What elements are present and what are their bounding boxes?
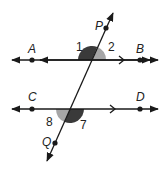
label-angle-7: 7 xyxy=(80,119,87,131)
label-angle-1: 1 xyxy=(76,41,83,53)
label-point-c: C xyxy=(28,91,37,103)
label-angle-8: 8 xyxy=(46,116,53,128)
diagram-canvas xyxy=(0,0,166,171)
label-angle-2: 2 xyxy=(108,41,115,53)
label-point-q: Q xyxy=(42,136,51,148)
parallel-lines-transversal-diagram: A B C D P Q 1 2 8 7 xyxy=(0,0,166,171)
transversal-pq xyxy=(47,13,113,161)
label-point-a: A xyxy=(28,43,36,55)
label-point-p: P xyxy=(95,20,103,32)
label-point-d: D xyxy=(136,91,145,103)
point-p xyxy=(103,25,108,30)
point-c xyxy=(29,106,34,111)
point-b xyxy=(137,57,142,62)
point-a xyxy=(29,57,34,62)
point-d xyxy=(137,106,142,111)
point-q xyxy=(52,140,57,145)
label-point-b: B xyxy=(136,43,144,55)
